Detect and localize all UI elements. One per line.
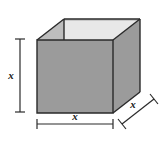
height-dimension [15, 39, 25, 112]
depth-tick-far [150, 94, 158, 104]
box-diagram: x x x [0, 0, 165, 143]
height-dimension-label: x [7, 69, 14, 81]
depth-tick-near [118, 119, 126, 129]
figure-container: x x x [0, 0, 165, 143]
width-dimension-label: x [71, 110, 78, 122]
depth-dimension-label: x [129, 98, 136, 110]
front-face [37, 40, 113, 113]
